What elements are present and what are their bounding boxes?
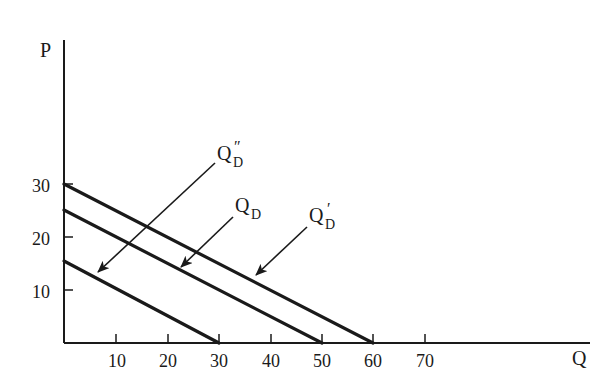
arrow-qd-prime: [256, 227, 307, 275]
x-tick-label-40: 40: [262, 351, 280, 371]
x-tick-label-70: 70: [416, 351, 434, 371]
svg-text:D: D: [325, 217, 335, 232]
y-tick-label-20: 20: [32, 229, 50, 249]
demand-curve-qd-double-prime: [64, 261, 219, 343]
demand-shift-chart: P Q 30 20 10 10 20 30 40 50 60 70 Q D ″ …: [0, 0, 611, 390]
demand-curve-qd: [64, 210, 322, 343]
x-tick-label-10: 10: [108, 351, 126, 371]
x-tick-label-60: 60: [364, 351, 382, 371]
y-ticks: [64, 184, 73, 290]
axes: [64, 40, 590, 343]
x-tick-label-50: 50: [313, 351, 331, 371]
svg-text:D: D: [251, 207, 261, 222]
label-qd-double-prime: Q D ″: [217, 138, 243, 170]
svg-text:′: ′: [327, 200, 331, 217]
x-tick-label-20: 20: [159, 351, 177, 371]
y-axis-label: P: [40, 39, 51, 61]
svg-text:D: D: [233, 155, 243, 170]
svg-text:″: ″: [234, 138, 241, 155]
x-axis-label: Q: [572, 347, 587, 369]
svg-text:Q: Q: [235, 194, 250, 216]
y-tick-label-10: 10: [32, 282, 50, 302]
y-tick-label-30: 30: [32, 176, 50, 196]
arrow-qd: [181, 217, 233, 267]
label-qd: Q D: [235, 194, 261, 222]
arrow-qd-double-prime: [98, 163, 215, 272]
svg-text:Q: Q: [309, 204, 324, 226]
x-ticks: [116, 334, 425, 343]
x-tick-label-30: 30: [210, 351, 228, 371]
svg-text:Q: Q: [217, 142, 232, 164]
label-qd-prime: Q D ′: [309, 200, 335, 232]
